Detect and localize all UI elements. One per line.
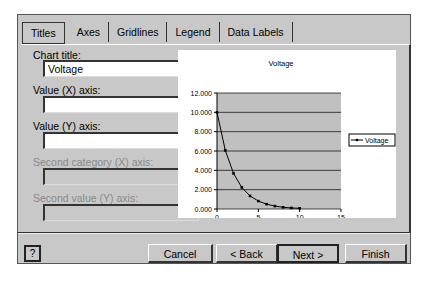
- svg-text:0.000: 0.000: [194, 206, 212, 213]
- tab-gridlines[interactable]: Gridlines: [109, 22, 167, 42]
- x-axis-labels: 051015: [215, 214, 345, 218]
- value-y-axis-input[interactable]: [43, 132, 199, 149]
- chart-preview: Voltage 0.0002.0004.0006.0008.00010.0001…: [178, 50, 396, 218]
- help-button[interactable]: ?: [24, 245, 41, 262]
- legend: Voltage: [349, 134, 395, 146]
- legend-label: Voltage: [365, 137, 388, 145]
- finish-button[interactable]: Finish: [345, 244, 407, 263]
- button-divider: [18, 232, 410, 234]
- tab-bar: Titles Axes Gridlines Legend Data Labels: [22, 22, 293, 44]
- svg-text:15: 15: [337, 214, 345, 218]
- tab-axes[interactable]: Axes: [69, 22, 109, 42]
- tab-titles[interactable]: Titles: [22, 22, 65, 44]
- svg-text:10.000: 10.000: [191, 109, 213, 116]
- svg-text:4.000: 4.000: [194, 167, 212, 174]
- tab-data-labels[interactable]: Data Labels: [220, 22, 293, 42]
- tab-legend[interactable]: Legend: [167, 22, 219, 42]
- second-category-x-axis-input: [43, 168, 199, 185]
- cancel-button[interactable]: Cancel: [148, 244, 213, 263]
- chart-svg: Voltage 0.0002.0004.0006.0008.00010.0001…: [178, 50, 396, 218]
- back-button[interactable]: < Back: [216, 244, 278, 263]
- svg-text:6.000: 6.000: [194, 148, 212, 155]
- next-button[interactable]: Next >: [277, 244, 339, 263]
- second-value-y-axis-input: [43, 204, 199, 221]
- svg-text:2.000: 2.000: [194, 186, 212, 193]
- chart-title-input[interactable]: Voltage: [43, 60, 199, 77]
- second-category-x-axis-label: Second category (X) axis:: [33, 156, 153, 168]
- svg-text:5: 5: [256, 214, 260, 218]
- svg-text:8.000: 8.000: [194, 128, 212, 135]
- second-value-y-axis-label: Second value (Y) axis:: [33, 192, 138, 204]
- svg-text:12.000: 12.000: [191, 90, 213, 97]
- value-y-axis-label: Value (Y) axis:: [33, 120, 101, 132]
- value-x-axis-label: Value (X) axis:: [33, 84, 101, 96]
- svg-text:0: 0: [215, 214, 219, 218]
- y-axis-labels: 0.0002.0004.0006.0008.00010.00012.000: [191, 90, 213, 213]
- svg-text:10: 10: [296, 214, 304, 218]
- chart-title: Voltage: [268, 59, 293, 68]
- value-x-axis-input[interactable]: [43, 96, 199, 113]
